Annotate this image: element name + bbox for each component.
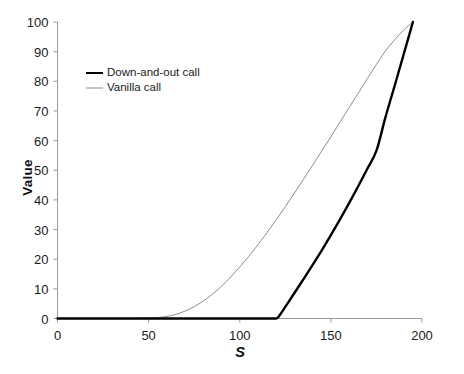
y-axis-tick-label: 0: [0, 311, 49, 326]
chart-legend: Down-and-out call Vanilla call: [86, 65, 246, 95]
legend-swatch-icon: [86, 68, 103, 78]
y-axis-tick-label: 100: [0, 15, 49, 30]
legend-label: Vanilla call: [107, 81, 161, 94]
y-axis-tick-label: 70: [0, 103, 49, 118]
x-axis-tick-label: 100: [229, 328, 251, 343]
x-axis-tick-label: 0: [54, 328, 61, 343]
x-axis-tick-label: 50: [141, 328, 155, 343]
legend-item-down-and-out-call: Down-and-out call: [86, 65, 246, 80]
x-axis-tick-label: 200: [411, 328, 433, 343]
y-axis-tick-label: 20: [0, 252, 49, 267]
x-axis-tick-label: 150: [320, 328, 342, 343]
y-axis-tick-label: 30: [0, 222, 49, 237]
plot-area: [0, 0, 464, 374]
y-axis-ticks: [54, 22, 58, 319]
chart-container: 0102030405060708090100 050100150200 Valu…: [0, 0, 464, 374]
y-axis-tick-label: 10: [0, 281, 49, 296]
legend-swatch-icon: [86, 83, 103, 93]
x-axis-title: S: [210, 344, 270, 360]
legend-item-vanilla-call: Vanilla call: [86, 80, 246, 95]
y-axis-tick-label: 80: [0, 74, 49, 89]
y-axis-title: Value: [20, 138, 35, 218]
legend-label: Down-and-out call: [107, 66, 200, 79]
y-axis-tick-label: 90: [0, 44, 49, 59]
